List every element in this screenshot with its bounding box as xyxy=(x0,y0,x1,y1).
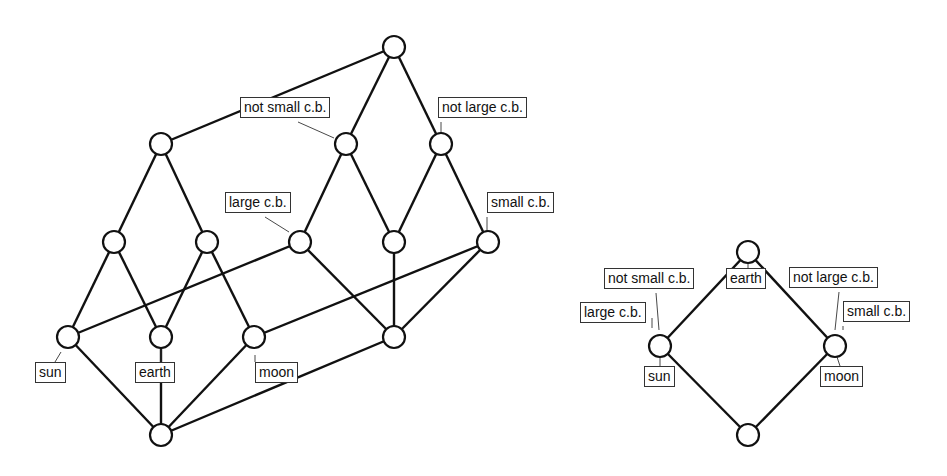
lattice-node-right xyxy=(824,335,846,357)
lattice-node-n-e xyxy=(196,231,218,253)
concept-label-not-large-c-b: not large c.b. xyxy=(789,267,878,288)
label-leader-line xyxy=(298,122,334,138)
concept-label-not-large-c-b: not large c.b. xyxy=(438,97,527,118)
lattice-node-n-f xyxy=(289,231,311,253)
concept-label-sun: sun xyxy=(35,362,66,383)
lattice-node-n-l xyxy=(383,326,405,348)
concept-label-moon: moon xyxy=(820,366,863,387)
lattice-node-n-i xyxy=(57,326,79,348)
lattice-edge xyxy=(660,252,748,346)
label-leader-line xyxy=(837,357,840,366)
lattice-node-n-d xyxy=(103,231,125,253)
lattice-edge xyxy=(161,337,394,435)
lattice-node-n-j xyxy=(150,326,172,348)
lattice-node-top xyxy=(383,36,405,58)
lattice-edge xyxy=(346,144,394,242)
concept-label-moon: moon xyxy=(255,362,298,383)
label-leader-line xyxy=(656,293,659,330)
lattice-edge xyxy=(68,242,114,337)
concept-label-earth: earth xyxy=(135,362,175,383)
concept-label-earth: earth xyxy=(726,268,766,289)
concept-label-large-c-b: large c.b. xyxy=(580,302,646,323)
lattice-node-n-g xyxy=(383,231,405,253)
label-leader-line xyxy=(55,352,61,362)
concept-label-sun: sun xyxy=(644,366,675,387)
lattice-edge xyxy=(660,346,748,435)
label-leader-line xyxy=(265,217,289,232)
lattice-node-n-c xyxy=(430,133,452,155)
lattice-edge xyxy=(68,242,300,337)
lattice-node-top xyxy=(737,241,759,263)
lattice-edge xyxy=(161,47,394,144)
concept-label-not-small-c-b: not small c.b. xyxy=(604,268,694,289)
lattice-edge xyxy=(394,242,488,337)
lattice-edge xyxy=(748,346,835,435)
lattice-node-n-a xyxy=(150,133,172,155)
lattice-edge xyxy=(68,337,161,435)
lattice-edge xyxy=(394,47,441,144)
lattice-node-left xyxy=(649,335,671,357)
lattice-edge xyxy=(161,337,254,435)
lattice-canvas xyxy=(0,0,947,476)
lattice-node-n-h xyxy=(477,231,499,253)
lattice-edge xyxy=(441,144,488,242)
lattice-edge xyxy=(300,242,394,337)
lattice-edge xyxy=(207,242,254,337)
label-leader-line xyxy=(835,292,839,330)
lattice-edge xyxy=(114,242,161,337)
lattice-node-n-b xyxy=(335,133,357,155)
lattice-edge xyxy=(161,144,207,242)
lattice-edge xyxy=(346,47,394,144)
lattice-node-n-k xyxy=(243,326,265,348)
lattice-node-bottom xyxy=(150,424,172,446)
concept-label-large-c-b: large c.b. xyxy=(225,192,291,213)
lattice-edge xyxy=(114,144,161,242)
lattice-edge xyxy=(394,144,441,242)
concept-label-not-small-c-b: not small c.b. xyxy=(240,97,330,118)
lattice-edge xyxy=(254,242,488,337)
lattice-edge xyxy=(300,144,346,242)
lattice-node-bottom xyxy=(737,424,759,446)
concept-label-small-c-b: small c.b. xyxy=(487,192,554,213)
concept-label-small-c-b: small c.b. xyxy=(843,301,910,322)
